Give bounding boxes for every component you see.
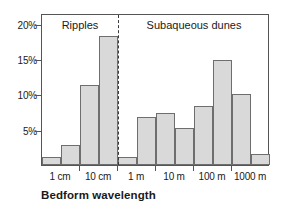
- x-tick-label: 10 m: [163, 171, 184, 182]
- bedform-wavelength-histogram: 5%10%15%20% RipplesSubaqueous dunes 1 cm…: [0, 0, 281, 211]
- bar: [156, 113, 175, 165]
- x-tick-mark: [155, 166, 156, 171]
- bar: [118, 157, 137, 165]
- bar: [251, 154, 270, 165]
- x-tick-label: 1000 m: [234, 171, 266, 182]
- x-axis-title: Bedform wavelength: [41, 189, 156, 201]
- bar: [80, 85, 99, 165]
- x-tick-label: 1 m: [128, 171, 144, 182]
- y-tick-label: 20%: [3, 19, 37, 30]
- x-tick-mark: [231, 166, 232, 171]
- bar: [213, 60, 232, 165]
- region-label: Subaqueous dunes: [147, 19, 242, 31]
- bar: [42, 157, 61, 165]
- bar: [194, 106, 213, 165]
- bar: [175, 128, 194, 165]
- ripples-dunes-divider: [118, 15, 119, 165]
- bar: [99, 36, 118, 165]
- plot-area: RipplesSubaqueous dunes: [41, 14, 269, 166]
- y-tick-label: 5%: [3, 125, 37, 136]
- y-tick-label: 15%: [3, 54, 37, 65]
- bar: [61, 145, 80, 165]
- bar: [137, 117, 156, 165]
- x-tick-mark: [193, 166, 194, 171]
- x-tick-mark: [117, 166, 118, 171]
- region-label: Ripples: [62, 19, 99, 31]
- y-tick-label: 10%: [3, 90, 37, 101]
- bar: [232, 94, 251, 165]
- x-tick-label: 10 cm: [85, 171, 111, 182]
- x-tick-mark: [79, 166, 80, 171]
- x-tick-label: 100 m: [199, 171, 226, 182]
- x-tick-label: 1 cm: [50, 171, 71, 182]
